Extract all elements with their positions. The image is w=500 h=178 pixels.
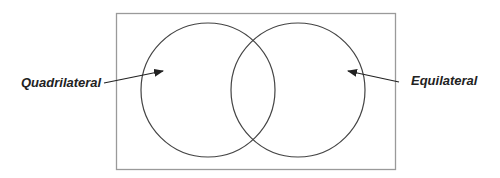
equilateral-arrow xyxy=(348,71,399,82)
equilateral-label: Equilateral xyxy=(411,73,477,88)
equilateral-set-circle xyxy=(231,23,365,157)
quadrilateral-arrow xyxy=(104,71,163,83)
quadrilateral-set-circle xyxy=(141,23,275,157)
universe-rectangle xyxy=(117,14,396,170)
quadrilateral-label: Quadrilateral xyxy=(21,75,101,90)
